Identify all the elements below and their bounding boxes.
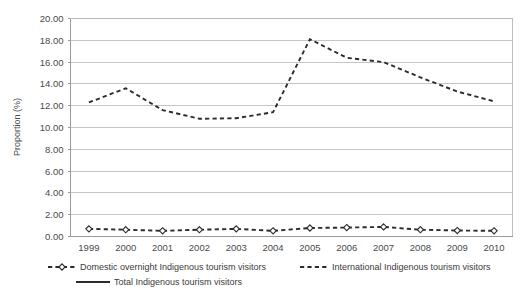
y-tick-label: 6.00 — [45, 166, 64, 177]
x-tick-label: 2003 — [226, 242, 247, 253]
x-tick-label: 2009 — [447, 242, 468, 253]
y-tick-label: 20.00 — [40, 13, 64, 24]
x-tick-label: 2006 — [336, 242, 357, 253]
legend-label: Total Indigenous tourism visitors — [114, 277, 243, 287]
y-tick-label: 16.00 — [40, 57, 64, 68]
y-tick-label: 10.00 — [40, 122, 64, 133]
y-tick-label: 2.00 — [45, 209, 64, 220]
legend-label: International Indigenous tourism visitor… — [332, 262, 491, 272]
x-tick-label: 2010 — [484, 242, 505, 253]
chart-container: 0.002.004.006.008.0010.0012.0014.0016.00… — [0, 0, 530, 305]
line-chart: 0.002.004.006.008.0010.0012.0014.0016.00… — [0, 0, 530, 305]
x-tick-label: 1999 — [78, 242, 99, 253]
y-tick-label: 0.00 — [45, 231, 64, 242]
legend-label: Domestic overnight Indigenous tourism vi… — [80, 262, 267, 272]
x-tick-label: 2005 — [299, 242, 320, 253]
y-tick-label: 14.00 — [40, 78, 64, 89]
x-tick-label: 2007 — [373, 242, 394, 253]
y-axis-title: Proportion (%) — [12, 98, 22, 156]
x-tick-label: 2002 — [189, 242, 210, 253]
y-tick-label: 4.00 — [45, 187, 64, 198]
chart-background — [0, 0, 530, 305]
legend-item: Domestic overnight Indigenous tourism vi… — [48, 262, 267, 272]
x-tick-label: 2004 — [263, 242, 284, 253]
y-tick-label: 8.00 — [45, 144, 64, 155]
y-tick-label: 18.00 — [40, 35, 64, 46]
y-tick-label: 12.00 — [40, 100, 64, 111]
x-tick-label: 2008 — [410, 242, 431, 253]
x-tick-label: 2000 — [115, 242, 136, 253]
x-tick-label: 2001 — [152, 242, 173, 253]
